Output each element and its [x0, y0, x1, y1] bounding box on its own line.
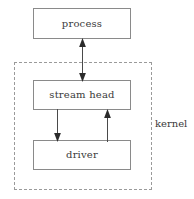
node-driver-label: driver: [66, 150, 98, 160]
edge-driver-stream-head-up-arrow: [101, 109, 114, 142]
node-stream-head-label: stream head: [49, 90, 114, 100]
node-process: process: [33, 8, 131, 39]
streams-architecture-diagram: process kernel stream head driver: [0, 0, 194, 199]
edge-stream-head-driver-down-arrow: [51, 109, 64, 142]
kernel-region-label: kernel: [155, 119, 187, 129]
node-driver: driver: [33, 140, 131, 170]
node-stream-head: stream head: [33, 80, 131, 110]
edge-process-stream-head-bidirectional-arrow: [76, 38, 89, 82]
node-process-label: process: [62, 19, 102, 29]
